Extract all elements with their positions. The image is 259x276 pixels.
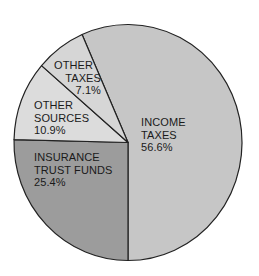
label-other-sources-line2: SOURCES xyxy=(34,112,89,125)
label-other-taxes: OTHER TAXES 7.1% xyxy=(50,59,101,97)
label-other-sources: OTHER SOURCES 10.9% xyxy=(34,99,89,137)
label-insurance-trust-funds: INSURANCE TRUST FUNDS 25.4% xyxy=(34,151,113,189)
label-other-sources-line1: OTHER xyxy=(34,99,89,112)
pie-chart xyxy=(0,0,259,276)
label-income-taxes-line2: TAXES xyxy=(141,129,186,142)
pie-slices xyxy=(14,24,242,260)
label-income-taxes-value: 56.6% xyxy=(141,141,186,154)
label-income-taxes: INCOME TAXES 56.6% xyxy=(141,116,186,154)
label-income-taxes-line1: INCOME xyxy=(141,116,186,129)
label-other-taxes-line1: OTHER xyxy=(50,59,101,72)
label-insurance-line1: INSURANCE xyxy=(34,151,113,164)
label-insurance-line2: TRUST FUNDS xyxy=(34,164,113,177)
label-other-taxes-value: 7.1% xyxy=(50,84,101,97)
label-other-taxes-line2: TAXES xyxy=(50,72,101,85)
label-insurance-value: 25.4% xyxy=(34,176,113,189)
label-other-sources-value: 10.9% xyxy=(34,124,89,137)
